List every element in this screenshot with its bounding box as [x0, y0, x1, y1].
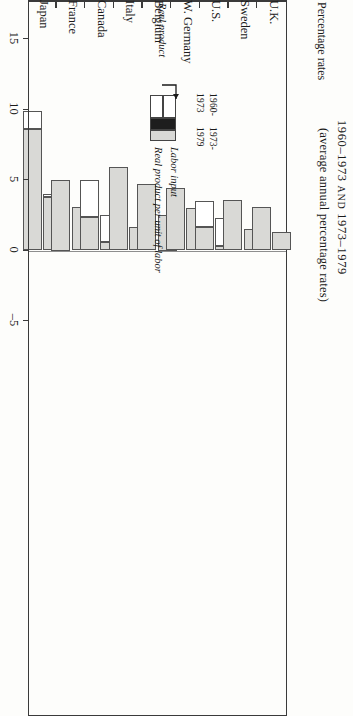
category-label-sweden: Sweden [237, 0, 252, 40]
bar-segment-labor-input-japan-0 [23, 111, 42, 129]
legend-label-labor-input: Labor input [169, 147, 180, 197]
category-tick [141, 1, 142, 8]
value-tick-label: 10 [6, 102, 21, 115]
value-axis-line [28, 0, 29, 716]
legend-swatch-gray-1973 [150, 130, 176, 141]
bar-segment-per-unit-labor-france-0 [51, 180, 70, 251]
category-label-uk: U.K. [265, 0, 280, 24]
bar-segment-per-unit-labor-japan-0 [23, 129, 42, 250]
bar-segment-per-unit-labor-sweden-0 [223, 200, 242, 251]
category-label-france: France [65, 0, 80, 34]
title-conjunction: AND [336, 185, 347, 209]
legend-label-per-unit-labor: Real product per unit of labor [153, 147, 164, 273]
legend-arrow-icon [160, 83, 182, 103]
value-tick-label: 0 [6, 246, 21, 252]
value-tick [23, 250, 29, 251]
value-tick-label: 15 [6, 32, 21, 45]
legend: 1960- 1973 1973- 1979 Real product Labor… [100, 85, 220, 305]
category-tick [55, 1, 56, 8]
bar-segment-per-unit-labor-canada-0 [80, 217, 99, 251]
plot-area: 1960- 1973 1973- 1979 Real product Labor… [29, 0, 287, 716]
bar-segment-labor-input-canada-0 [80, 180, 99, 217]
title-period-2: 1973–1979 [335, 213, 349, 275]
category-label-italy: Italy [122, 0, 137, 23]
category-label-japan: Japan [36, 0, 51, 28]
category-tick [256, 1, 257, 8]
category-label-wgermany: W. Germany [179, 0, 194, 63]
category-tick [170, 1, 171, 8]
legend-swatch-dark-1973 [150, 118, 176, 130]
title-period-1: 1960–1973 [335, 120, 349, 182]
legend-col2-line2: 1979 [195, 127, 205, 147]
legend-col1-line1: 1960- [208, 93, 218, 116]
value-tick-label: –5 [6, 314, 21, 327]
chart-header: 1960–1973 AND 1973–1979 (average annual … [287, 0, 353, 716]
legend-col1-line2: 1973 [195, 93, 205, 113]
category-label-canada: Canada [93, 0, 108, 37]
chart-subtitle: (average annual percentage rates) [316, 128, 331, 302]
rotated-chart-stage: 1960–1973 AND 1973–1979 (average annual … [0, 0, 353, 716]
category-label-us: U.S. [208, 0, 223, 22]
value-tick [23, 38, 29, 39]
category-tick [199, 1, 200, 8]
value-tick [23, 179, 29, 180]
category-tick [227, 1, 228, 8]
value-tick [23, 320, 29, 321]
bar-segment-per-unit-labor-uk-0 [252, 207, 271, 251]
chart-title: 1960–1973 AND 1973–1979 [334, 120, 349, 275]
legend-col2-line1: 1973- [208, 127, 218, 150]
category-tick [113, 1, 114, 8]
bar-segment-per-unit-labor-uk-1 [272, 232, 291, 250]
value-tick-label: 5 [6, 176, 21, 182]
value-tick [23, 109, 29, 110]
category-label-belgium: Belgium [151, 0, 166, 43]
category-tick [84, 1, 85, 8]
value-axis-caption: Percentage rates [314, 2, 329, 80]
